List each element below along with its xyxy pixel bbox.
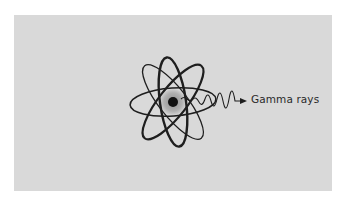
nucleus-icon bbox=[168, 97, 178, 107]
gamma-rays-label: Gamma rays bbox=[251, 93, 319, 105]
